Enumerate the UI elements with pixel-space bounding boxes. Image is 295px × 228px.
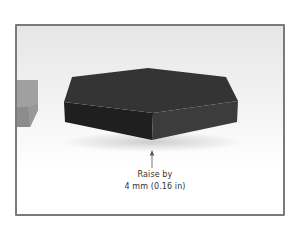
raised-tile-illustration xyxy=(0,0,295,228)
raise-arrow-icon xyxy=(150,150,154,168)
raised-hex-tile xyxy=(64,68,238,140)
annotation-line-1: Raise by xyxy=(95,169,215,180)
neighbor-tile xyxy=(10,80,38,127)
annotation-line-2: 4 mm (0.16 in) xyxy=(95,181,215,192)
